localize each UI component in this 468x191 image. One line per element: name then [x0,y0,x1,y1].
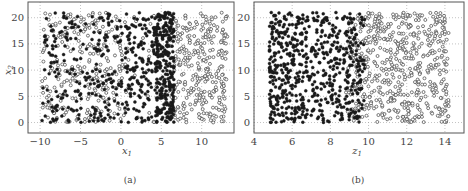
data-point-filled [278,114,281,117]
data-point-open [149,22,152,25]
data-point-filled [136,65,139,68]
data-point-filled [275,121,278,124]
data-point-open [417,26,420,29]
data-point-filled [169,57,172,60]
data-point-open [218,50,221,53]
data-point-open [191,78,194,81]
data-point-filled [275,37,278,40]
data-point-filled [329,48,332,51]
data-point-open [411,47,414,50]
data-point-open [435,91,438,94]
data-point-filled [129,92,132,95]
data-point-filled [296,39,299,42]
data-point-filled [158,44,161,47]
data-point-open [441,113,444,116]
data-point-filled [160,92,163,95]
data-point-open [174,19,177,22]
data-point-open [177,90,180,93]
data-point-filled [351,82,354,85]
data-point-open [198,56,201,59]
data-point-filled [331,34,334,37]
data-point-filled [321,114,324,117]
data-point-open [182,45,185,48]
data-point-open [184,80,187,83]
data-point-filled [298,53,301,56]
data-point-filled [338,29,341,32]
data-point-filled [131,50,134,53]
data-point-filled [54,37,57,40]
data-point-filled [82,43,85,46]
data-point-filled [136,79,139,82]
data-point-filled [333,114,336,117]
y-tick-label: 5 [18,91,24,102]
x-tick-label: 12 [400,136,413,147]
data-point-filled [305,113,308,116]
data-point-filled [305,45,308,48]
data-point-filled [315,43,318,46]
data-point-filled [107,73,110,76]
data-point-open [186,29,189,32]
data-point-open [185,121,188,124]
data-point-open [397,32,400,35]
data-point-open [183,52,186,55]
data-point-filled [93,47,96,50]
data-point-open [71,77,74,80]
data-point-open [42,60,45,63]
data-point-filled [64,89,67,92]
data-point-filled [97,43,100,46]
data-point-filled [314,49,317,52]
data-point-open [410,74,413,77]
data-point-open [441,54,444,57]
data-point-filled [346,69,349,72]
data-point-filled [53,40,56,43]
data-point-filled [324,97,327,100]
data-point-open [364,95,367,98]
data-point-filled [145,77,148,80]
data-point-open [396,51,399,54]
data-point-filled [76,90,79,93]
data-point-filled [156,23,159,26]
data-point-open [184,14,187,17]
data-point-filled [73,58,76,61]
x-tick-label: −10 [30,136,51,147]
data-point-open [443,120,446,123]
data-point-filled [140,85,143,88]
data-point-open [435,32,438,35]
data-point-filled [53,70,56,73]
data-point-filled [322,69,325,72]
data-point-open [389,58,392,61]
data-point-filled [164,50,167,53]
data-point-filled [169,18,172,21]
data-point-open [435,11,438,14]
data-point-open [46,106,49,109]
data-point-open [377,24,380,27]
data-point-filled [54,45,57,48]
data-point-open [378,37,381,40]
data-point-open [118,65,121,68]
data-point-filled [348,115,351,118]
data-point-open [82,18,85,21]
data-point-filled [278,77,281,80]
data-point-filled [89,114,92,117]
data-point-filled [165,69,168,72]
data-point-filled [338,94,341,97]
data-point-open [356,17,359,20]
data-point-filled [154,89,157,92]
data-point-filled [293,109,296,112]
data-point-open [376,79,379,82]
data-point-open [175,37,178,40]
data-point-open [406,94,409,97]
data-point-filled [274,22,277,25]
data-point-filled [149,82,152,85]
data-point-filled [285,18,288,21]
data-point-filled [140,76,143,79]
data-point-filled [349,12,352,15]
data-point-open [220,120,223,123]
data-point-filled [290,14,293,17]
data-point-filled [358,74,361,77]
data-point-open [376,34,379,37]
data-point-filled [303,54,306,57]
data-point-open [374,62,377,65]
data-point-open [224,42,227,45]
data-point-open [205,70,208,73]
